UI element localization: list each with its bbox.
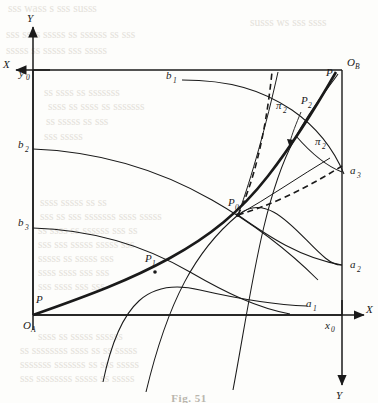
curve-label-pi2-lower-subscript: 2 — [322, 142, 326, 151]
curve-label-P2: P2 — [300, 94, 312, 110]
curve-label-b3: b3 — [18, 216, 29, 232]
indifference-curve-a1 — [103, 287, 307, 382]
offer-line-pi2-upper — [238, 72, 278, 215]
curve-label-a2: a2 — [350, 258, 361, 274]
indifference-curve-b2 — [33, 149, 318, 280]
curve-label-P-top-base: P — [325, 66, 333, 78]
curve-label-P0-base: P — [227, 196, 235, 208]
curve-label-a3-subscript: 3 — [356, 171, 361, 180]
origin-b-subscript: B — [355, 62, 360, 71]
point-marker-p1 — [153, 270, 157, 274]
curve-label-P0: P0 — [227, 196, 239, 212]
axis-label-x-topleft: X — [2, 58, 11, 70]
curve-label-pi2-lower-base: π — [315, 135, 321, 147]
curve-label-b2-subscript: 2 — [25, 145, 29, 154]
indifference-curve-b1 — [182, 80, 344, 174]
offer-line-pi2-lower — [238, 158, 330, 215]
figure-caption: Fig. 51 — [0, 392, 378, 403]
curve-label-P2-base: P — [300, 94, 308, 106]
curve-label-pi2-lower: π2 — [315, 135, 326, 151]
indifference-curve-a3 — [233, 74, 338, 390]
curve-label-pi2-upper-subscript: 2 — [283, 106, 287, 115]
curve-label-pi2-upper: π2 — [276, 99, 287, 115]
curve-label-P0-subscript: 0 — [235, 203, 239, 212]
axis-label-y0: y — [18, 67, 24, 79]
curve-label-b3-base: b — [18, 216, 24, 228]
curve-label-a1-base: a — [306, 297, 312, 309]
curve-label-b2: b2 — [18, 138, 29, 154]
curve-label-b1-subscript: 1 — [173, 76, 177, 85]
origin-a-label: O — [23, 319, 31, 331]
curve-label-b2-base: b — [18, 138, 24, 150]
curve-label-P1-base: P — [144, 252, 152, 264]
figure-root: sss wass s sss sussssusss ws sss sssssss… — [0, 0, 378, 403]
curve-label-pi2-upper-base: π — [276, 99, 282, 111]
curve-label-b3-subscript: 3 — [24, 223, 29, 232]
curve-label-P-bottom: P — [35, 293, 43, 305]
curve-label-a2-subscript: 2 — [357, 265, 361, 274]
curve-label-b1: b1 — [166, 69, 177, 85]
curve-label-a3-base: a — [350, 164, 356, 176]
axis-label-x0-subscript: 0 — [331, 325, 335, 334]
curve-label-P-bottom-base: P — [35, 293, 43, 305]
curve-label-a1: a1 — [306, 297, 317, 313]
curve-label-a3: a3 — [350, 164, 361, 180]
point-marker-p0 — [236, 213, 240, 217]
curve-label-P2-subscript: 2 — [308, 101, 312, 110]
origin-b-label: O — [347, 56, 355, 68]
axis-label-x-bottom: X — [365, 303, 374, 315]
curve-label-layer: b1b2b3a1a2a3P0P1P2PPπ2π2 — [18, 66, 361, 313]
curve-label-b1-base: b — [166, 69, 172, 81]
curve-label-a2-base: a — [350, 258, 356, 270]
curve-label-P-top: P — [325, 66, 333, 78]
origin-a-subscript: A — [30, 325, 36, 334]
edgeworth-box-diagram: Y X y 0 O A O B X x 0 Y b1b2b3a1a2a3P0P1… — [0, 0, 378, 403]
indifference-curve-a2-tail — [238, 215, 342, 265]
curve-label-a1-subscript: 1 — [313, 304, 317, 313]
axis-label-y-top: Y — [27, 12, 35, 24]
axis-label-x0: x — [324, 319, 330, 331]
axis-label-y0-subscript: 0 — [26, 73, 30, 82]
curve-label-P1-subscript: 1 — [152, 259, 156, 268]
